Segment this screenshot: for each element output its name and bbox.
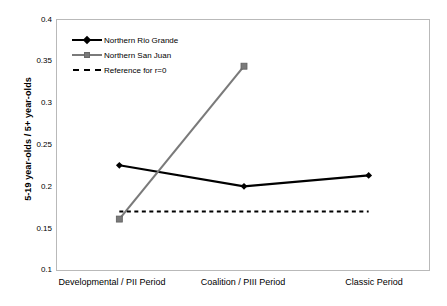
dashed-line-icon: [72, 64, 102, 76]
y-tick-label: 0.15: [22, 225, 52, 233]
data-point-marker: [365, 172, 372, 179]
data-point-marker: [241, 183, 248, 190]
diamond-marker-icon: [72, 34, 102, 46]
x-tick-label: Developmental / PII Period: [37, 277, 187, 288]
y-tick-label: 0.25: [22, 141, 52, 149]
data-point-marker: [116, 216, 122, 222]
x-tick-label: Coalition / PIII Period: [168, 277, 318, 288]
legend-item-northern-rio-grande: Northern Rio Grande: [72, 34, 212, 46]
square-marker-icon: [72, 49, 102, 61]
data-point-marker: [116, 162, 123, 169]
legend-label: Northern San Juan: [102, 51, 171, 60]
legend-label: Reference for r=0: [102, 66, 166, 75]
y-tick-label: 0.4: [22, 16, 52, 24]
data-point-marker: [241, 63, 247, 69]
legend: Northern Rio Grande Northern San Juan Re…: [72, 34, 212, 79]
y-tick-label: 0.3: [22, 99, 52, 107]
legend-label: Northern Rio Grande: [102, 36, 178, 45]
x-tick-label: Classic Period: [299, 277, 447, 288]
x-axis-tick-labels: Developmental / PII Period Coalition / P…: [56, 277, 430, 297]
y-tick-label: 0.1: [22, 266, 52, 274]
y-tick-label: 0.35: [22, 57, 52, 65]
y-tick-label: 0.2: [22, 183, 52, 191]
legend-item-northern-san-juan: Northern San Juan: [72, 49, 212, 61]
legend-item-reference-r0: Reference for r=0: [72, 64, 212, 76]
line-chart: 5-19 year-olds / 5+ year-olds 0.4 0.35 0…: [0, 0, 447, 306]
y-axis-tick-labels: 0.4 0.35 0.3 0.25 0.2 0.15 0.1: [20, 0, 52, 306]
series-line: [119, 66, 244, 219]
